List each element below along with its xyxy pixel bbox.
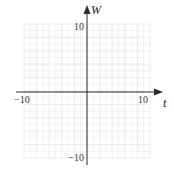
x-axis-label: t xyxy=(163,96,167,110)
y-tick-min: −10 xyxy=(68,152,84,163)
coordinate-plane: W t 10 −10 −10 10 xyxy=(0,0,174,173)
y-tick-max: 10 xyxy=(74,21,84,32)
x-tick-max: 10 xyxy=(138,94,148,105)
x-axis-arrow-icon xyxy=(154,89,163,96)
x-tick-min: −10 xyxy=(14,94,30,105)
y-axis-arrow-icon xyxy=(84,5,91,14)
y-axis-label: W xyxy=(91,3,102,17)
